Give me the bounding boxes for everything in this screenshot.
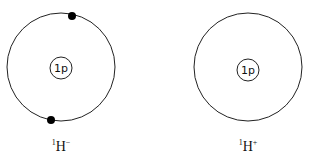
hydrogen-cation-atom: 1p [194, 13, 302, 121]
hydrogen-cation-label: 1H+ [218, 138, 278, 155]
charge: + [253, 138, 258, 147]
electron [68, 12, 76, 20]
hydride-ion-atom: 1p [7, 12, 115, 124]
nucleus-label: 1p [241, 64, 255, 77]
nucleus-label: 1p [54, 62, 68, 75]
element-symbol: H [56, 139, 66, 154]
charge: − [66, 138, 71, 147]
hydride-ion-label: 1H− [31, 138, 91, 155]
electron [47, 116, 55, 124]
element-symbol: H [243, 139, 253, 154]
diagram-canvas: 1p 1p [0, 0, 311, 161]
